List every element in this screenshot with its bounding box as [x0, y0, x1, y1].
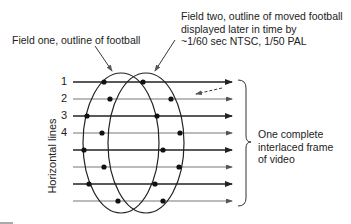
field-one-pointer	[95, 46, 112, 71]
interlace-diagram	[0, 0, 351, 224]
intersection-dots	[81, 79, 182, 203]
field-two-pointer	[155, 40, 175, 71]
field-one-football-outline	[83, 73, 159, 213]
field-two-football-outline	[108, 73, 184, 213]
frame-brace	[238, 80, 251, 206]
retrace-dashed-arrow	[196, 88, 222, 94]
